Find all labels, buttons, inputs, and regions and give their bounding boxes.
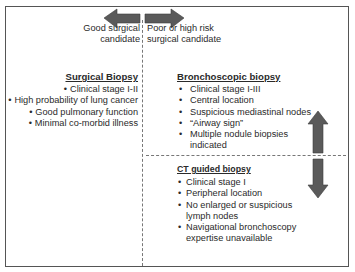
good-candidate-line-1: Good surgical: [83, 23, 140, 34]
list-item: •Central location: [177, 95, 337, 106]
poor-candidate-label: Poor or high risk surgical candidate: [147, 23, 221, 45]
item-text: Good pulmonary function: [35, 107, 138, 117]
ct-guided-biopsy-title: CT guided biopsy: [177, 163, 337, 175]
bronchoscopic-biopsy-section: Bronchoscopic biopsy •Clinical stage I-I…: [177, 71, 337, 152]
good-candidate-label: Good surgical candidate: [83, 23, 140, 45]
list-item: •Minimal co-morbid illness: [8, 118, 138, 129]
list-item: •Multiple nodule biopsies indicated: [177, 129, 315, 152]
list-item: •Suspicious mediastinal nodes: [177, 107, 337, 118]
item-text: Suspicious mediastinal nodes: [190, 107, 311, 117]
surgical-biopsy-section: Surgical Biopsy •Clinical stage I-II •Hi…: [8, 71, 138, 129]
surgical-biopsy-title: Surgical Biopsy: [8, 71, 138, 83]
horizontal-divider: [146, 155, 346, 156]
item-text: No enlarged or suspicious lymph nodes: [186, 200, 292, 221]
poor-candidate-line-1: Poor or high risk: [147, 23, 221, 34]
bullet-icon: •: [178, 188, 181, 199]
list-item: •Clinical stage I: [177, 177, 337, 188]
bullet-icon: •: [179, 129, 182, 140]
bronchoscopic-biopsy-list: •Clinical stage I-III •Central location …: [177, 84, 337, 152]
vertical-divider: [142, 20, 143, 266]
bullet-icon: •: [29, 107, 32, 117]
bullet-icon: •: [178, 200, 181, 211]
item-text: Clinical stage I-III: [190, 84, 260, 94]
ct-guided-biopsy-list: •Clinical stage I •Peripheral location •…: [177, 177, 337, 245]
list-item: •No enlarged or suspicious lymph nodes: [177, 200, 311, 223]
item-text: Central location: [190, 95, 254, 105]
poor-candidate-line-2: surgical candidate: [147, 34, 221, 45]
bullet-icon: •: [64, 84, 67, 94]
item-text: Navigational bronchoscopy expertise unav…: [186, 222, 296, 243]
bullet-icon: •: [29, 118, 32, 128]
list-item: •Navigational bronchoscopy expertise una…: [177, 222, 326, 245]
item-text: Multiple nodule biopsies indicated: [190, 129, 288, 150]
list-item: •High probability of lung cancer: [8, 95, 138, 106]
bullet-icon: •: [179, 95, 182, 106]
bullet-icon: •: [8, 95, 11, 105]
bullet-icon: •: [179, 84, 182, 95]
bullet-icon: •: [179, 107, 182, 118]
item-text: “Airway sign”: [190, 118, 243, 128]
item-text: High probability of lung cancer: [14, 95, 138, 105]
list-item: •“Airway sign”: [177, 118, 337, 129]
list-item: •Clinical stage I-II: [8, 84, 138, 95]
list-item: •Peripheral location: [177, 188, 337, 199]
ct-guided-biopsy-section: CT guided biopsy •Clinical stage I •Peri…: [177, 163, 337, 245]
bronchoscopic-biopsy-title: Bronchoscopic biopsy: [177, 71, 337, 83]
list-item: •Good pulmonary function: [8, 107, 138, 118]
bullet-icon: •: [179, 118, 182, 129]
good-candidate-line-2: candidate: [83, 34, 140, 45]
list-item: •Clinical stage I-III: [177, 84, 337, 95]
item-text: Clinical stage I-II: [70, 84, 138, 94]
bullet-icon: •: [178, 177, 181, 188]
item-text: Minimal co-morbid illness: [35, 118, 138, 128]
bullet-icon: •: [178, 222, 181, 233]
surgical-biopsy-list: •Clinical stage I-II •High probability o…: [8, 84, 138, 129]
item-text: Peripheral location: [186, 188, 262, 198]
item-text: Clinical stage I: [186, 177, 246, 187]
